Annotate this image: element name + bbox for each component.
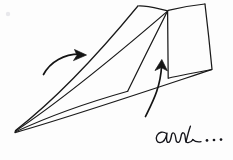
panel-right-edge (205, 4, 212, 69)
mid-fold-edge (128, 12, 167, 91)
base-edge (15, 70, 212, 133)
script-ellipsis-dot-1 (206, 139, 209, 142)
wing-top-edge (138, 6, 168, 11)
wing-ridge-edge (15, 12, 167, 132)
handwritten-annotation (156, 126, 222, 142)
script-letter-a (156, 132, 167, 142)
sketch-page: Paper folding step sketch (0, 0, 233, 160)
script-trailing-stroke (193, 139, 201, 141)
panel-top-edge (168, 4, 205, 10)
script-ellipsis-dot-3 (220, 138, 223, 141)
folded-paper-form (15, 4, 212, 133)
script-letter-d-ascender (186, 126, 190, 142)
sketch-canvas (0, 0, 233, 160)
script-letter-n (168, 133, 178, 143)
panel-left-edge (168, 11, 169, 78)
paper-speck (6, 12, 10, 16)
upper-wing-edge (16, 7, 138, 131)
script-ellipsis-dot-2 (213, 139, 216, 142)
inner-crease-lower (15, 91, 128, 132)
